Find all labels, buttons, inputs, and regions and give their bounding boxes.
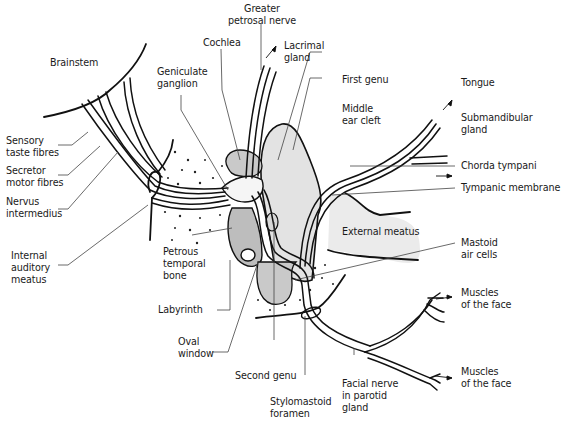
label-internal-auditory-meatus: Internal auditory meatus — [11, 250, 50, 286]
label-mastoid-air-cells: Mastoid air cells — [461, 237, 498, 261]
label-muscles-of-the-face-upper: Muscles of the face — [461, 287, 511, 311]
label-facial-nerve-in-parotid-gland: Facial nerve in parotid gland — [342, 378, 398, 414]
label-nervus-intermedius: Nervus intermedius — [6, 196, 62, 220]
label-first-genu: First genu — [342, 74, 388, 86]
label-lacrimal-gland: Lacrimal gland — [284, 40, 324, 64]
label-petrous-temporal-bone: Petrous temporal bone — [163, 246, 206, 282]
geniculate-ganglion-shape — [222, 176, 263, 202]
label-tympanic-membrane: Tympanic membrane — [461, 182, 560, 194]
label-external-meatus: External meatus — [342, 226, 419, 238]
label-middle-ear-cleft: Middle ear cleft — [342, 103, 381, 127]
label-second-genu: Second genu — [235, 370, 296, 382]
meatus-curve — [158, 140, 173, 172]
label-chorda-tympani: Chorda tympani — [461, 160, 537, 172]
label-muscles-of-the-face-lower: Muscles of the face — [461, 366, 511, 390]
label-labyrinth: Labyrinth — [158, 304, 203, 316]
label-greater-petrosal-nerve: Greater petrosal nerve — [228, 3, 296, 27]
internal-auditory-meatus-edge — [150, 198, 152, 240]
label-cochlea: Cochlea — [203, 37, 241, 49]
label-submandibular-gland: Submandibular gland — [461, 112, 533, 136]
label-tongue: Tongue — [461, 77, 495, 89]
label-oval-window: Oval window — [178, 336, 214, 360]
oval-window-shape — [241, 249, 255, 261]
cochlea-shape — [226, 150, 262, 177]
label-brainstem: Brainstem — [50, 57, 98, 69]
label-secretor-motor-fibres: Secretor motor fibres — [6, 165, 63, 189]
label-stylomastoid-foramen: Stylomastoid foramen — [270, 396, 331, 420]
label-geniculate-ganglion: Geniculate ganglion — [157, 66, 208, 90]
label-sensory-taste-fibres: Sensory taste fibres — [6, 135, 59, 159]
mastoid-air-cells-shape — [257, 262, 296, 304]
